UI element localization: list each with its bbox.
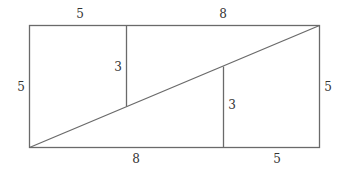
label-left: 5 [17, 80, 25, 94]
label-inner-left: 3 [114, 60, 122, 74]
label-bottom-right: 5 [273, 152, 281, 166]
label-inner-right: 3 [228, 98, 236, 112]
label-top-right: 8 [219, 7, 227, 21]
label-right: 5 [324, 80, 332, 94]
diagram: 5 8 5 5 8 5 3 3 [0, 0, 345, 176]
diagonal [30, 26, 320, 148]
label-top-left: 5 [76, 7, 84, 21]
label-bottom-left: 8 [132, 152, 140, 166]
